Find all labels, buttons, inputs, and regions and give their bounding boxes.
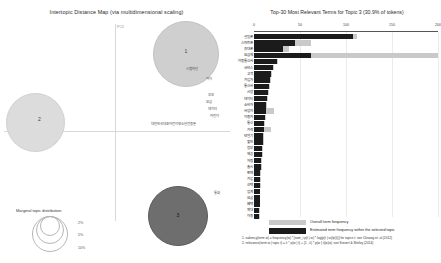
top-terms-panel: Top-30 Most Relevant Terms for Topic 3 (… <box>233 0 441 263</box>
bar-label: 저렴 <box>193 158 253 163</box>
bar-topic-frequency <box>254 133 263 138</box>
bar-topic-frequency <box>254 127 264 132</box>
bar-row[interactable]: 확대 <box>240 208 438 213</box>
bar-label: 사업자 <box>193 108 253 113</box>
bar-label: 판매 <box>193 170 253 175</box>
bar-label: 혜택 <box>193 201 253 206</box>
bar-row[interactable]: 정부 <box>240 146 438 151</box>
bar-row[interactable]: 고객 <box>240 71 438 76</box>
bar-row[interactable]: 스마트폰 <box>240 40 438 45</box>
bar-topic-frequency <box>254 59 277 64</box>
map-title: Intertopic Distance Map (via multidimens… <box>0 9 233 15</box>
bar-row[interactable]: 알뜰폰 <box>240 34 438 39</box>
bar-topic-frequency <box>254 34 353 39</box>
bar-label: 제공 <box>193 151 253 156</box>
x-tick-label: 0 <box>253 23 255 27</box>
bar-row[interactable]: 제공 <box>240 152 438 157</box>
bar-row[interactable]: 출시 <box>240 164 438 169</box>
bar-topic-frequency <box>254 158 261 163</box>
bar-topic-frequency <box>254 77 270 82</box>
bar-row[interactable]: 이용자 <box>240 115 438 120</box>
legend-swatch-overall <box>269 220 306 226</box>
bar-label: 소비자 <box>193 102 253 107</box>
bar-row[interactable]: 소비자 <box>240 102 438 107</box>
bar-label: 서비스 <box>193 65 253 70</box>
bar-row[interactable]: 이동통신사 <box>240 59 438 64</box>
marginal-size-label-5: 5% <box>78 233 83 237</box>
bar-row[interactable]: 휴대폰 <box>240 46 438 51</box>
legend-label-topic: Estimated term frequency within the sele… <box>310 228 395 232</box>
legend-swatch-topic <box>269 228 306 234</box>
bar-label: 정부 <box>193 145 253 150</box>
bar-topic-frequency <box>254 152 262 157</box>
bar-row[interactable]: 요금제 <box>240 53 438 58</box>
bar-chart-title: Top-30 Most Relevant Terms for Topic 3 (… <box>233 9 441 15</box>
bar-label: 이동통신사 <box>193 58 253 63</box>
x-tick-label: 50 <box>298 23 302 27</box>
bar-row[interactable]: 가입자 <box>240 77 438 82</box>
bar-label: 휴대폰 <box>193 46 253 51</box>
bar-label: 시장 <box>193 89 253 94</box>
bar-row[interactable]: 업계 <box>240 189 438 194</box>
bar-topic-frequency <box>254 108 266 113</box>
bar-label: 요금제 <box>193 52 253 57</box>
x-tick-label: 150 <box>389 23 395 27</box>
bar-chart-area: 050100150200 알뜰폰스마트폰휴대폰요금제이동통신사서비스고객가입자통… <box>240 22 438 217</box>
bar-label: 스마트폰 <box>193 40 253 45</box>
bar-topic-frequency <box>254 121 264 126</box>
marginal-circle-2pct <box>40 216 60 236</box>
bar-row[interactable]: 요금 <box>240 195 438 200</box>
bar-row[interactable]: 서비스 <box>240 65 438 70</box>
bar-label: 확대 <box>193 207 253 212</box>
bar-topic-frequency <box>254 115 265 120</box>
bar-label: 이용 <box>193 213 253 218</box>
bar-label: 업계 <box>193 189 253 194</box>
bar-topic-frequency <box>254 139 263 144</box>
topic-circle-label-2: 2 <box>38 116 41 122</box>
axis-label-pc2: PC2 <box>117 25 124 29</box>
marginal-legend-title: Marginal topic distribution <box>16 208 61 213</box>
bar-topic-frequency <box>254 164 261 169</box>
bar-row[interactable]: 저렴 <box>240 158 438 163</box>
topic-circle-label-1: 1 <box>185 48 188 54</box>
bar-topic-frequency <box>254 46 283 51</box>
x-tick-label: 200 <box>435 23 441 27</box>
bar-label: 요금 <box>193 195 253 200</box>
topic-circle-2[interactable]: 2 <box>6 93 65 152</box>
legend-row-topic: Estimated term frequency within the sele… <box>240 228 440 235</box>
bar-row[interactable]: 시장 <box>240 90 438 95</box>
marginal-topic-distribution-legend: Marginal topic distribution 2% 5% 10% <box>8 208 104 260</box>
bar-label: 할인 <box>193 139 253 144</box>
marginal-size-label-10: 10% <box>78 246 85 250</box>
bar-topic-frequency <box>254 90 268 95</box>
bar-row[interactable]: 선택 <box>240 183 438 188</box>
bar-row[interactable]: 혜택 <box>240 201 438 206</box>
bar-row[interactable]: 가격 <box>240 127 438 132</box>
bar-row[interactable]: 할인 <box>240 139 438 144</box>
bar-row[interactable]: 사업자 <box>240 108 438 113</box>
bar-topic-frequency <box>254 183 260 188</box>
bar-row[interactable]: 단말기 <box>240 133 438 138</box>
legend-label-overall: Overall term frequency <box>310 220 348 224</box>
bar-topic-frequency <box>254 208 259 213</box>
bar-topic-frequency <box>254 189 260 194</box>
bar-row[interactable]: 판매 <box>240 170 438 175</box>
bar-label: 통신사 <box>193 83 253 88</box>
footnote-saliency: 1. saliency(term w) = frequency(w) * [su… <box>240 236 440 240</box>
bar-row[interactable]: 통신사 <box>240 84 438 89</box>
pyldavis-visualization: Intertopic Distance Map (via multidimens… <box>0 0 441 263</box>
bar-topic-frequency <box>254 53 311 58</box>
marginal-size-label-2: 2% <box>78 221 83 225</box>
bar-row[interactable]: 데이터 <box>240 96 438 101</box>
bar-topic-frequency <box>254 195 260 200</box>
bar-topic-frequency <box>254 71 271 76</box>
bar-row[interactable]: 가입 <box>240 177 438 182</box>
bar-label: 통신 <box>193 120 253 125</box>
bar-topic-frequency <box>254 84 269 89</box>
bar-label: 가입 <box>193 176 253 181</box>
bar-topic-frequency <box>254 65 273 70</box>
bar-label: 출시 <box>193 164 253 169</box>
bar-label: 알뜰폰 <box>193 34 253 39</box>
topic-circle-label-3: 3 <box>177 212 180 218</box>
bar-row[interactable]: 통신 <box>240 121 438 126</box>
